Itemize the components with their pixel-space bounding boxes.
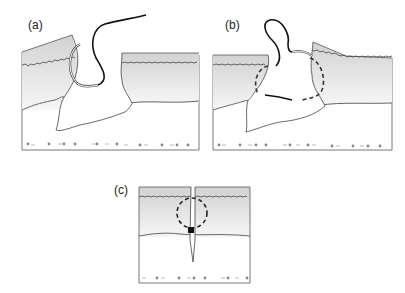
panel-a	[22, 15, 199, 150]
panel-c	[139, 187, 250, 283]
knot-icon	[188, 227, 194, 233]
panel-b	[213, 20, 392, 150]
suture-diagram	[0, 0, 405, 293]
